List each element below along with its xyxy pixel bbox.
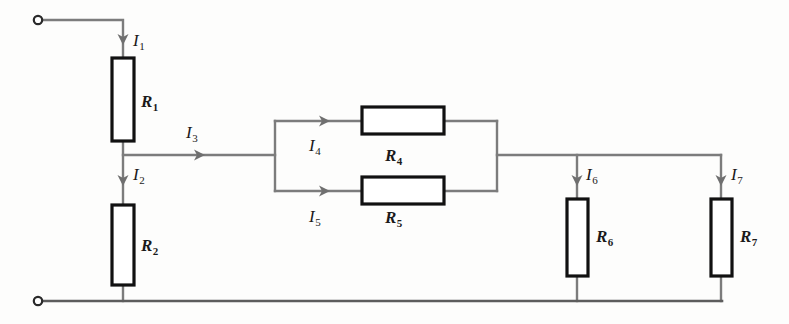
circuit-diagram: R1R2R4R5R6R7I1I2I3I4I5I6I7 (0, 0, 789, 324)
current-label-i4: I4 (309, 137, 320, 154)
current-label-i5-symbol: I (309, 207, 315, 226)
resistor-label-r1-symbol: R (141, 92, 152, 111)
resistor-label-r7-subscript: 7 (752, 236, 758, 248)
resistor-group (112, 58, 732, 285)
resistor-r1-body (112, 58, 134, 141)
wire-group (44, 20, 722, 301)
resistor-r4-body (362, 107, 444, 134)
resistor-label-r5-subscript: 5 (397, 217, 403, 229)
current-label-i5-subscript: 5 (315, 216, 321, 228)
terminal-group (34, 16, 42, 305)
resistor-label-r6-subscript: 6 (608, 236, 614, 248)
resistor-label-r4-subscript: 4 (397, 155, 403, 167)
current-label-i5: I5 (309, 208, 320, 225)
resistor-label-r7: R7 (740, 228, 757, 245)
current-label-i7-symbol: I (731, 165, 737, 184)
wire-top-lead (44, 20, 123, 58)
current-label-i3-symbol: I (186, 123, 192, 142)
resistor-label-r7-symbol: R (740, 227, 751, 246)
resistor-label-r6: R6 (596, 228, 613, 245)
resistor-label-r1: R1 (141, 93, 158, 110)
terminal-top-left (34, 16, 42, 24)
resistor-label-r2-symbol: R (141, 236, 152, 255)
resistor-label-r2: R2 (141, 237, 158, 254)
current-label-i2: I2 (133, 166, 144, 183)
current-label-i1: I1 (133, 32, 144, 49)
resistor-label-r2-subscript: 2 (153, 245, 159, 257)
current-label-i7-subscript: 7 (737, 174, 743, 186)
resistor-r5-body (362, 177, 444, 204)
current-label-i1-subscript: 1 (139, 40, 145, 52)
resistor-label-r4-symbol: R (385, 146, 396, 165)
current-label-i1-symbol: I (133, 31, 139, 50)
resistor-label-r5: R5 (385, 209, 402, 226)
terminal-bottom-left (34, 297, 42, 305)
resistor-r7-body (711, 199, 732, 276)
resistor-r6-body (567, 199, 588, 276)
current-label-i4-subscript: 4 (315, 145, 321, 157)
current-label-i2-symbol: I (133, 165, 139, 184)
resistor-r2-body (112, 205, 134, 285)
current-label-i3-subscript: 3 (192, 132, 198, 144)
current-label-i7: I7 (731, 166, 742, 183)
current-label-i2-subscript: 2 (139, 174, 145, 186)
resistor-label-r4: R4 (385, 147, 402, 164)
current-label-i6-subscript: 6 (592, 174, 598, 186)
resistor-label-r5-symbol: R (385, 208, 396, 227)
current-label-i4-symbol: I (309, 136, 315, 155)
current-label-i6-symbol: I (586, 165, 592, 184)
current-label-i6: I6 (586, 166, 597, 183)
resistor-label-r6-symbol: R (596, 227, 607, 246)
resistor-label-r1-subscript: 1 (153, 101, 159, 113)
current-label-i3: I3 (186, 124, 197, 141)
